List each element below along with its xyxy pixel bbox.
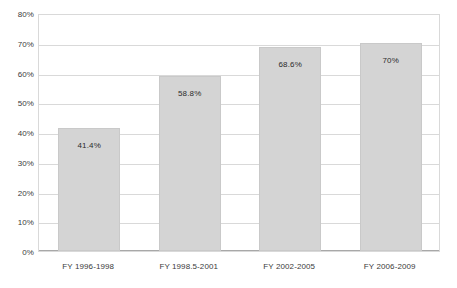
y-axis-tick-label: 30% [0, 158, 34, 167]
bar-slot: 68.6% [259, 15, 321, 251]
y-axis-tick-label: 50% [0, 99, 34, 108]
x-axis-tick-label: FY 2006-2009 [340, 262, 441, 272]
y-axis-tick-label: 60% [0, 69, 34, 78]
y-axis-tick-label: 40% [0, 129, 34, 138]
y-axis: 80% 70% 60% 50% 40% 30% 20% 10% 0% [0, 14, 34, 252]
x-axis-tick-label: FY 1998.5-2001 [139, 262, 240, 272]
bar-slot: 41.4% [58, 15, 120, 251]
y-axis-tick-label: 20% [0, 188, 34, 197]
bar-chart: 80% 70% 60% 50% 40% 30% 20% 10% 0% 41.4%… [0, 0, 457, 288]
bar-value-label: 70% [360, 56, 422, 65]
bar-slot: 58.8% [159, 15, 221, 251]
bar-slot: 70% [360, 15, 422, 251]
y-axis-tick-label: 10% [0, 218, 34, 227]
bar [360, 43, 422, 251]
x-axis-tick-label: FY 2002-2005 [239, 262, 340, 272]
y-axis-tick-label: 70% [0, 39, 34, 48]
y-axis-tick-label: 0% [0, 248, 34, 257]
x-axis: FY 1996-1998 FY 1998.5-2001 FY 2002-2005… [38, 262, 440, 276]
y-axis-tick-label: 80% [0, 10, 34, 19]
bar-value-label: 58.8% [159, 89, 221, 98]
x-axis-tick-label: FY 1996-1998 [38, 262, 139, 272]
bar [159, 76, 221, 251]
bar-value-label: 41.4% [58, 141, 120, 150]
plot-area: 41.4% 58.8% 68.6% 70% [38, 14, 440, 252]
bar-value-label: 68.6% [259, 60, 321, 69]
bar-series: 41.4% 58.8% 68.6% 70% [39, 15, 439, 251]
bar [259, 47, 321, 251]
